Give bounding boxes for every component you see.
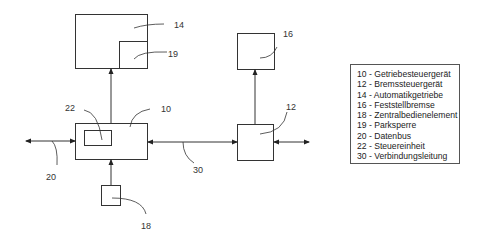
label-12: 12 bbox=[286, 102, 296, 112]
leader-20 bbox=[52, 141, 57, 165]
leader-14 bbox=[134, 24, 164, 28]
label-14: 14 bbox=[174, 20, 184, 30]
leader-22 bbox=[84, 110, 102, 140]
label-22: 22 bbox=[65, 103, 75, 113]
legend-item: 18 - Zentralbedienelement bbox=[357, 110, 459, 120]
block-22-steuereinheit bbox=[85, 131, 112, 146]
legend-item: 20 - Datenbus bbox=[357, 131, 459, 141]
label-10: 10 bbox=[161, 104, 171, 114]
legend-item: 14 - Automatikgetriebe bbox=[357, 90, 459, 100]
block-19-parksperre bbox=[120, 42, 148, 69]
legend-item: 12 - Bremssteuergerät bbox=[357, 79, 459, 89]
label-30: 30 bbox=[193, 165, 203, 175]
legend-item: 16 - Feststellbremse bbox=[357, 100, 459, 110]
legend-item: 30 - Verbindungsleitung bbox=[357, 151, 459, 161]
block-16-feststellbremse bbox=[238, 34, 275, 70]
leader-12 bbox=[260, 112, 287, 134]
leader-30 bbox=[183, 142, 194, 163]
legend: 10 - Getriebesteuergerät 12 - Bremssteue… bbox=[350, 64, 460, 164]
block-18-zentralbedienelement bbox=[102, 186, 121, 206]
legend-item: 22 - Steuereinheit bbox=[357, 141, 459, 151]
label-19: 19 bbox=[168, 49, 178, 59]
legend-item: 10 - Getriebesteuergerät bbox=[357, 69, 459, 79]
label-20: 20 bbox=[46, 172, 56, 182]
label-18: 18 bbox=[141, 221, 151, 231]
legend-item: 19 - Parksperre bbox=[357, 120, 459, 130]
label-16: 16 bbox=[283, 29, 293, 39]
block-12-bremssteuergeraet bbox=[238, 125, 274, 161]
leader-19 bbox=[134, 52, 167, 59]
